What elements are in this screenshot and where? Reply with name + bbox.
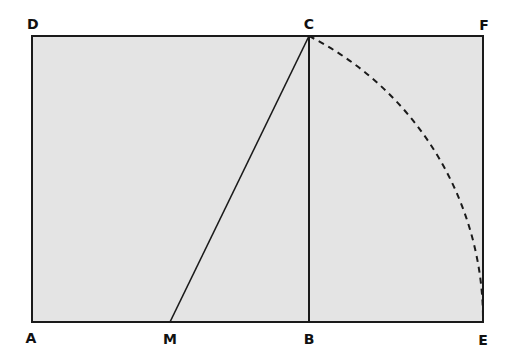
point-label-F: F [479, 17, 489, 33]
point-label-M: M [163, 331, 177, 347]
outer-rectangle [32, 36, 483, 322]
point-label-E: E [478, 332, 488, 348]
golden-rectangle-diagram: D C F A M B E [0, 0, 509, 361]
point-label-A: A [26, 330, 37, 346]
point-label-D: D [27, 16, 39, 32]
point-label-C: C [304, 16, 314, 32]
point-label-B: B [304, 331, 315, 347]
